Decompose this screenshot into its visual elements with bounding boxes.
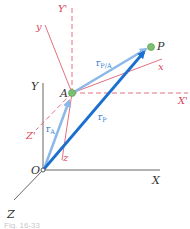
label-vector-rA: rA: [46, 124, 55, 136]
label-vector-rPA: rP/A: [96, 58, 112, 70]
vector-rP: [44, 52, 144, 169]
label-point-P: P: [156, 40, 165, 53]
relative-motion-diagram: Y' y x X' Z' z P A Y X Z O rP/A rA rP Fi…: [0, 0, 190, 229]
label-rotating-y: y: [35, 21, 42, 32]
vectors: [44, 49, 146, 169]
label-translating-x: X': [177, 95, 188, 106]
label-vector-rP: rP: [98, 112, 107, 124]
label-rotating-x: x: [158, 61, 164, 72]
label-translating-y: Y': [58, 3, 67, 14]
label-fixed-X: X: [151, 174, 161, 187]
point-O: [41, 168, 45, 172]
label-point-A: A: [59, 87, 68, 100]
label-fixed-Z: Z: [6, 208, 15, 221]
label-translating-z: Z': [25, 130, 36, 141]
fixed-axes: [14, 83, 160, 200]
point-A: [69, 90, 76, 97]
label-rotating-z: z: [62, 152, 69, 163]
figure-caption: Fig. 16-33: [4, 221, 41, 229]
label-fixed-Y: Y: [31, 80, 40, 93]
rotating-y-axis: [45, 25, 72, 93]
vector-rPA: [74, 49, 146, 92]
point-P: [148, 44, 155, 51]
label-origin-O: O: [31, 164, 40, 177]
rotating-x-axis: [72, 59, 162, 93]
